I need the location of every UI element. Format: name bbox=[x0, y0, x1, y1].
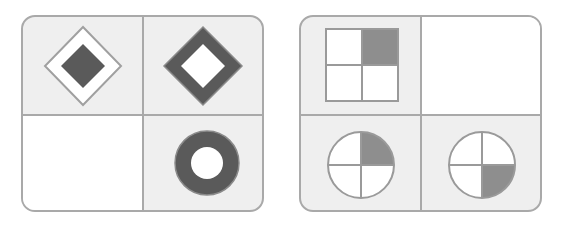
left-cell-bottom-right bbox=[143, 115, 264, 212]
horizontal-divider bbox=[301, 114, 540, 116]
right-cell-top-right-blank bbox=[421, 17, 542, 115]
quartered-circle-icon bbox=[301, 115, 421, 212]
left-cell-bottom-left-blank bbox=[23, 115, 143, 212]
circle-ring-icon bbox=[143, 115, 264, 212]
left-cell-top-left bbox=[23, 17, 143, 115]
quartered-circle-icon bbox=[421, 115, 542, 212]
left-puzzle-panel bbox=[21, 15, 264, 212]
right-cell-top-left bbox=[301, 17, 421, 115]
right-puzzle-panel bbox=[299, 15, 542, 212]
diamond-filled-inner-icon bbox=[23, 17, 143, 115]
diamond-ring-icon bbox=[143, 17, 264, 115]
shaded-quadrant-top-right bbox=[362, 29, 398, 65]
quartered-square-icon bbox=[301, 17, 421, 115]
left-cell-top-right bbox=[143, 17, 264, 115]
right-cell-bottom-right bbox=[421, 115, 542, 212]
right-cell-bottom-left bbox=[301, 115, 421, 212]
inner-white-circle bbox=[191, 147, 223, 179]
horizontal-divider bbox=[23, 114, 262, 116]
